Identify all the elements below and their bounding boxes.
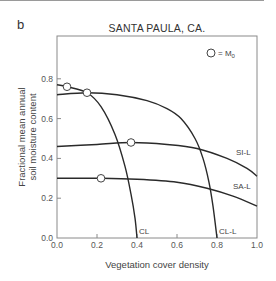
mo-marker [83,89,91,97]
x-tick-label: 0.2 [91,240,103,250]
curves [57,85,257,238]
curve-label-cl: CL [139,227,150,236]
y-axis-ticks: 0.00.20.40.60.8 [41,74,61,243]
plot-frame [57,36,257,238]
legend-text: = M0 [218,49,236,59]
x-tick-label: 1.0 [251,240,263,250]
mo-marker [63,83,71,91]
y-axis-label-line1: Fractional mean annual [16,87,27,186]
x-axis-ticks: 0.00.20.40.60.81.0 [51,234,263,250]
x-tick-label: 0.8 [211,240,223,250]
curve-label-sa-l: SA-L [233,182,251,191]
curve-label-cl-l: CL-L [219,227,237,236]
y-tick-label: 0.6 [41,114,53,124]
mo-marker [127,139,135,147]
x-tick-label: 0.6 [171,240,183,250]
curve-si-l [57,142,257,176]
y-tick-label: 0.4 [41,153,53,163]
y-axis-label-line2: soil moisture content [27,93,38,180]
x-tick-label: 0.4 [131,240,143,250]
open-circle-icon [207,49,215,57]
x-axis-label: Vegetation cover density [105,259,209,270]
y-tick-label: 0.0 [41,233,53,243]
y-tick-label: 0.8 [41,74,53,84]
curve-cl [57,85,137,238]
curve-cl-l [57,93,217,238]
markers [63,83,135,182]
curve-sa-l [57,178,257,206]
chart-plot: 0.00.20.40.60.81.0 0.00.20.40.60.8 CLCL-… [0,0,276,281]
y-tick-label: 0.2 [41,193,53,203]
curve-label-si-l: SI-L [236,148,251,157]
legend: = M0 [207,49,236,59]
mo-marker [97,175,105,183]
